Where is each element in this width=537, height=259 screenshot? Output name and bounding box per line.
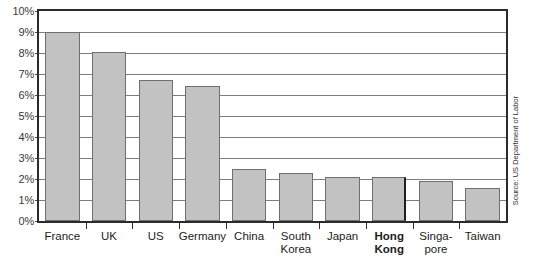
- x-axis-label-line: Korea: [267, 243, 325, 256]
- y-axis: 10%9%8%7%6%5%4%3%2%1%0%: [0, 0, 34, 259]
- y-axis-tick-label: 5%: [0, 111, 34, 122]
- x-axis-label-line: pore: [407, 243, 465, 256]
- bar-uk: [92, 52, 126, 221]
- x-axis-tick-mark: [132, 223, 133, 229]
- y-axis-tick-label: 4%: [0, 132, 34, 143]
- plot-area: [37, 9, 508, 223]
- y-axis-tick-label: 9%: [0, 27, 34, 38]
- y-axis-tick-label: 6%: [0, 90, 34, 101]
- x-axis-tick-mark: [366, 223, 367, 229]
- bar-france: [45, 32, 79, 221]
- x-axis-tick-mark: [86, 223, 87, 229]
- bar-japan: [325, 177, 359, 221]
- y-axis-tick-label: 0%: [0, 216, 34, 227]
- x-axis-label-line: Taiwan: [454, 230, 512, 243]
- x-axis-label-taiwan: Taiwan: [454, 230, 512, 243]
- bar-germany: [185, 86, 219, 221]
- bar-chart: 10%9%8%7%6%5%4%3%2%1%0% FranceUKUSGerman…: [0, 0, 537, 259]
- y-axis-tick-label: 8%: [0, 48, 34, 59]
- bar-south-korea: [279, 173, 313, 221]
- bar-us: [139, 80, 173, 221]
- x-axis-tick-mark: [273, 223, 274, 229]
- bar-china: [232, 169, 266, 222]
- y-axis-tick-label: 2%: [0, 174, 34, 185]
- x-axis-tick-mark: [413, 223, 414, 229]
- x-axis-tick-mark: [226, 223, 227, 229]
- bars-layer: [39, 11, 506, 221]
- bar-taiwan: [465, 188, 499, 221]
- y-axis-tick-label: 7%: [0, 69, 34, 80]
- source-note: Source: US Department of Labor: [512, 96, 520, 205]
- x-axis-tick-mark: [459, 223, 460, 229]
- x-axis-ticks: [37, 223, 508, 229]
- y-axis-tick-label: 1%: [0, 195, 34, 206]
- bar-hong-kong: [372, 177, 406, 221]
- y-axis-tick-label: 3%: [0, 153, 34, 164]
- x-axis-tick-mark: [179, 223, 180, 229]
- y-axis-tick-label: 10%: [0, 6, 34, 17]
- x-axis: FranceUKUSGermanyChinaSouthKoreaJapanHon…: [37, 230, 508, 259]
- x-axis-tick-mark: [319, 223, 320, 229]
- bar-singapore: [419, 181, 453, 221]
